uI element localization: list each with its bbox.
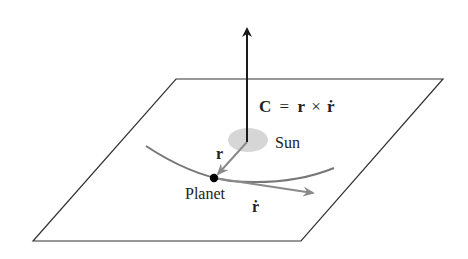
equation-lhs: C: [259, 97, 271, 116]
diagram-canvas: C = r × ṙ Sun r Planet ṙ: [0, 0, 468, 259]
velocity-vector-label: ṙ: [252, 198, 259, 215]
position-vector-label: r: [216, 145, 223, 162]
planet-label: Planet: [185, 185, 226, 202]
equation-equals: =: [280, 97, 290, 116]
orbit-path: [146, 146, 334, 182]
planet-icon: [210, 174, 218, 182]
diagram-svg: C = r × ṙ Sun r Planet ṙ: [0, 0, 468, 259]
velocity-vector-arrow: [214, 178, 313, 193]
equation-label: C = r × ṙ: [259, 97, 335, 116]
orbital-plane: [33, 79, 443, 241]
equation-rdot: ṙ: [327, 97, 335, 116]
sun-label: Sun: [275, 134, 300, 151]
equation-r: r: [297, 97, 305, 116]
equation-cross: ×: [311, 97, 321, 116]
